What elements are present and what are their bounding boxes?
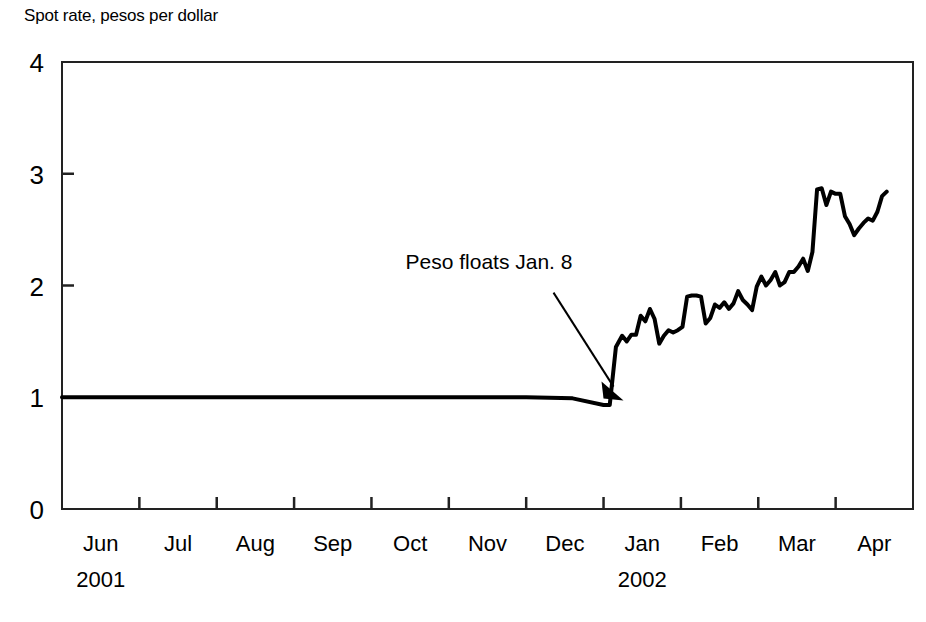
x-axis-tick-label: Feb xyxy=(701,531,739,556)
plot-frame xyxy=(62,62,913,509)
y-axis-tick-label: 0 xyxy=(30,495,44,525)
x-axis-tick-label: Apr xyxy=(857,531,891,556)
data-series-line xyxy=(62,188,887,405)
x-axis-tick-label: Jan xyxy=(624,531,659,556)
chart-container: Spot rate, pesos per dollar 01234JunJulA… xyxy=(0,0,926,622)
x-axis-tick-label: Nov xyxy=(468,531,507,556)
x-axis-year-label: 2002 xyxy=(618,567,667,592)
x-axis-tick-label: Mar xyxy=(778,531,816,556)
x-axis-tick-label: Sep xyxy=(313,531,352,556)
chart-plot: 01234JunJulAugSepOctNovDecJanFebMarApr20… xyxy=(0,0,926,622)
x-axis-tick-label: Jul xyxy=(164,531,192,556)
y-axis-tick-label: 2 xyxy=(30,272,44,302)
x-axis-year-label: 2001 xyxy=(76,567,125,592)
x-axis-tick-label: Jun xyxy=(83,531,118,556)
annotation-arrow-line xyxy=(554,293,614,387)
x-axis-tick-label: Dec xyxy=(545,531,584,556)
y-axis-tick-label: 1 xyxy=(30,383,44,413)
y-axis-tick-label: 3 xyxy=(30,160,44,190)
annotation-label: Peso floats Jan. 8 xyxy=(406,250,573,273)
x-axis-tick-label: Oct xyxy=(393,531,427,556)
x-axis-tick-label: Aug xyxy=(236,531,275,556)
y-axis-tick-label: 4 xyxy=(30,48,44,78)
